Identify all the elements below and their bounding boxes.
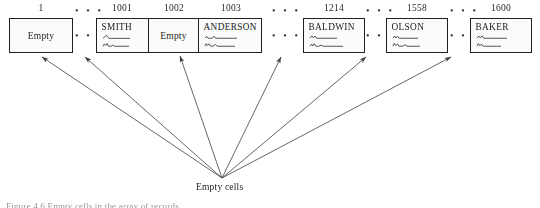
cell-index-label: 1003 xyxy=(200,3,262,13)
array-cell-record: OLSON xyxy=(386,18,448,53)
ellipsis-separator: • • • xyxy=(75,5,104,16)
scribble-line-icon xyxy=(102,42,148,47)
scribble-line-icon xyxy=(309,42,365,47)
pointer-arrow xyxy=(222,57,281,178)
array-cell-record: BALDWIN xyxy=(303,18,365,53)
ellipsis-separator: • • • xyxy=(272,30,301,41)
scribble-line-icon xyxy=(204,34,260,39)
pointer-arrow xyxy=(180,56,222,178)
record-scribble-lines xyxy=(476,34,528,47)
cell-index-label: 1214 xyxy=(303,3,365,13)
cell-index-label: 1558 xyxy=(386,3,448,13)
record-name-label: OLSON xyxy=(392,22,444,32)
scribble-line-icon xyxy=(476,34,532,39)
pointer-arrow xyxy=(42,57,222,178)
record-scribble-lines xyxy=(309,34,361,47)
pointer-arrow xyxy=(85,57,222,178)
scribble-line-icon xyxy=(204,42,260,47)
record-scribble-lines xyxy=(204,34,258,47)
array-cell-record: SMITH xyxy=(97,19,149,52)
ellipsis-separator: • • • xyxy=(272,5,301,16)
cell-index-label: 1001 xyxy=(96,3,148,13)
record-scribble-lines xyxy=(102,34,145,47)
scribble-line-icon xyxy=(309,34,365,39)
scribble-line-icon xyxy=(392,42,448,47)
cell-empty-label: Empty xyxy=(28,31,54,41)
array-cell-record: ANDERSON xyxy=(199,19,261,52)
figure-caption: Figure 4.6 Empty cells in the array of r… xyxy=(6,201,181,208)
scribble-line-icon xyxy=(392,34,448,39)
pointer-arrow xyxy=(222,57,451,178)
record-name-label: BALDWIN xyxy=(309,22,361,32)
array-cell-empty: Empty xyxy=(9,18,73,53)
cell-index-label: 1600 xyxy=(470,3,532,13)
ellipsis-separator: • • • xyxy=(450,5,479,16)
array-cell-record: BAKER xyxy=(470,18,532,53)
array-cell-strip: SMITH Empty ANDERSON xyxy=(96,18,262,53)
cell-index-label: 1 xyxy=(9,3,73,13)
array-diagram-figure: 1 1001 1002 1003 1214 1558 1600 • • • • … xyxy=(0,0,540,208)
empty-cells-label: Empty cells xyxy=(196,182,243,192)
cell-empty-label: Empty xyxy=(160,31,186,41)
record-name-label: ANDERSON xyxy=(204,22,258,32)
cell-index-label: 1002 xyxy=(148,3,200,13)
scribble-line-icon xyxy=(102,34,148,39)
ellipsis-separator: • • • xyxy=(366,5,395,16)
record-name-label: BAKER xyxy=(476,22,528,32)
record-scribble-lines xyxy=(392,34,444,47)
array-cell-empty: Empty xyxy=(149,19,199,52)
scribble-line-icon xyxy=(476,42,532,47)
record-name-label: SMITH xyxy=(102,22,145,32)
pointer-arrow xyxy=(222,57,366,178)
